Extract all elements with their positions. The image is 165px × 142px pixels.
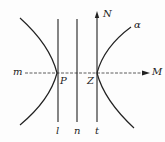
label-alpha: α <box>134 20 141 30</box>
label-t: t <box>95 126 99 136</box>
hyperbola-diagram: m M N α P Z l n t <box>0 0 165 142</box>
hyperbola-right-branch <box>97 27 134 128</box>
label-P: P <box>60 76 67 86</box>
label-M: M <box>152 67 162 77</box>
arrow-N-icon <box>95 11 99 18</box>
label-Z: Z <box>87 76 94 86</box>
label-N: N <box>103 9 112 19</box>
hyperbola-left-branch <box>20 18 57 125</box>
arrow-M-icon <box>142 71 150 76</box>
label-m: m <box>13 67 22 77</box>
label-n: n <box>74 126 80 136</box>
label-l: l <box>56 126 59 136</box>
